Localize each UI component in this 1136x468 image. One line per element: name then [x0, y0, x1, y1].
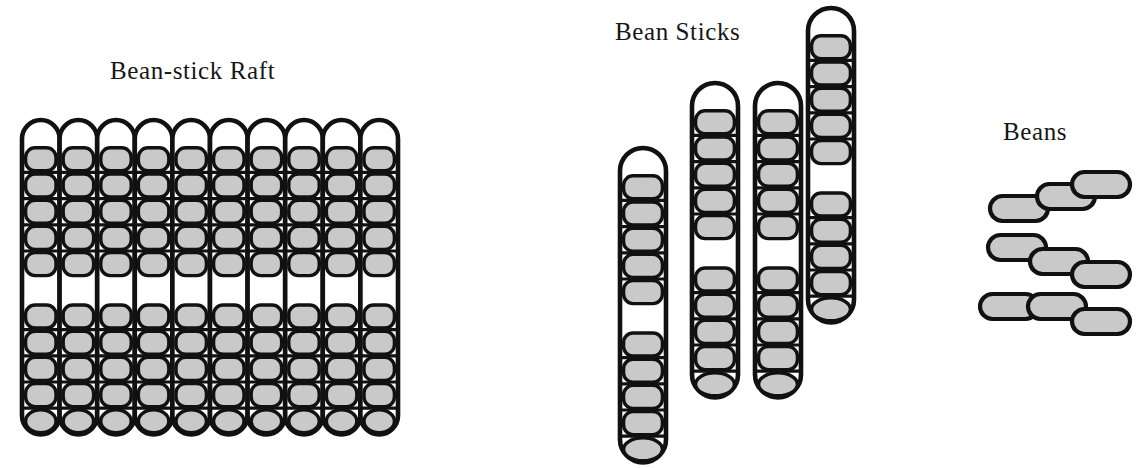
bean-cell [624, 176, 663, 199]
bean-cell [101, 384, 131, 407]
bean-cell [289, 305, 319, 328]
bean-cell [759, 216, 798, 239]
bean-cell [289, 331, 319, 354]
bean-cell [63, 331, 93, 354]
bean-cell [63, 384, 93, 407]
bean-cell [176, 305, 206, 328]
loose-bean-3 [1072, 172, 1130, 197]
bean-cell [251, 148, 281, 171]
bean-cell [696, 189, 735, 212]
bean-cell [696, 163, 735, 186]
bean-cell [26, 305, 56, 328]
bean-stick-raft-col-3 [97, 120, 135, 434]
bean-cell [759, 137, 798, 160]
bean-cell [326, 200, 356, 223]
bean-cell [696, 216, 735, 239]
bean-cell [696, 268, 735, 291]
bean-cell [214, 226, 244, 249]
bean-cell [289, 200, 319, 223]
bean-cell [759, 294, 798, 317]
bean-cell [624, 438, 663, 461]
bean-cell [214, 384, 244, 407]
bean-cell [101, 200, 131, 223]
bean-cell [251, 331, 281, 354]
bean-cell [176, 331, 206, 354]
bean-cell [176, 410, 206, 433]
bean-cell [214, 357, 244, 380]
bean-cell [289, 253, 319, 276]
bean-cell [101, 148, 131, 171]
bean-cell [138, 253, 168, 276]
bean-cell [289, 174, 319, 197]
bean-cell [251, 174, 281, 197]
bean-cell [759, 320, 798, 343]
bean-cell [63, 226, 93, 249]
bean-cell [176, 200, 206, 223]
bean-cell [26, 357, 56, 380]
bean-cell [696, 137, 735, 160]
bean-cell [63, 174, 93, 197]
bean-cell [326, 226, 356, 249]
bean-cell [138, 410, 168, 433]
bean-cell [812, 114, 851, 137]
bean-cell [326, 305, 356, 328]
bean-stick-raft-col-1 [22, 120, 60, 434]
bean-cell [289, 357, 319, 380]
bean-sticks-title: Bean Sticks [615, 18, 740, 46]
bean-cell [101, 357, 131, 380]
bean-cell [101, 226, 131, 249]
bean-cell [26, 226, 56, 249]
bean-cell [364, 253, 394, 276]
bean-cell [251, 305, 281, 328]
bean-cell [812, 193, 851, 216]
bean-cell [63, 410, 93, 433]
bean-cell [176, 357, 206, 380]
loose-beans-group [980, 172, 1130, 334]
bean-cell [251, 384, 281, 407]
bean-cell [364, 200, 394, 223]
bean-cell [326, 384, 356, 407]
bean-sticks-group [620, 8, 854, 462]
bean-cell [289, 226, 319, 249]
bean-stick-raft-col-5 [172, 120, 210, 434]
bean-cell [364, 148, 394, 171]
bean-cell [138, 305, 168, 328]
bean-cell [176, 226, 206, 249]
bean-cell [63, 148, 93, 171]
bean-cell [26, 174, 56, 197]
bean-cell [138, 331, 168, 354]
bean-cell [812, 245, 851, 268]
bean-stick-raft [22, 120, 398, 434]
bean-cell [214, 331, 244, 354]
bean-cell [624, 228, 663, 251]
bean-cell [138, 148, 168, 171]
bean-cell [696, 294, 735, 317]
bean-cell [63, 200, 93, 223]
bean-stick-raft-col-4 [135, 120, 173, 434]
bean-cell [138, 357, 168, 380]
bean-cell [624, 281, 663, 304]
bean-stick-loose-1 [620, 148, 666, 462]
bean-stick-raft-title: Bean-stick Raft [110, 57, 275, 85]
bean-cell [326, 174, 356, 197]
bean-cell [63, 305, 93, 328]
bean-cell [624, 254, 663, 277]
bean-cell [176, 253, 206, 276]
bean-cell [26, 200, 56, 223]
bean-cell [759, 111, 798, 134]
loose-bean-6 [1072, 262, 1130, 287]
bean-cell [759, 347, 798, 370]
bean-stick-raft-col-2 [60, 120, 98, 434]
bean-cell [26, 331, 56, 354]
bean-cell [326, 148, 356, 171]
bean-cell [251, 410, 281, 433]
beans-title: Beans [1003, 118, 1067, 146]
bean-cell [696, 347, 735, 370]
bean-cell [812, 272, 851, 295]
bean-stick-raft-col-8 [285, 120, 323, 434]
bean-cell [138, 384, 168, 407]
bean-cell [26, 384, 56, 407]
bean-cell [759, 189, 798, 212]
bean-cell [812, 88, 851, 111]
bean-cell [214, 410, 244, 433]
